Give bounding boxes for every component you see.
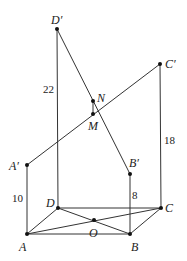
label-M: M <box>87 119 99 133</box>
geometry-diagram: A B C D O A′ B′ C′ D′ M N 10 8 18 22 <box>0 0 187 261</box>
point-D1 <box>55 27 59 31</box>
point-D <box>56 206 60 210</box>
point-N <box>91 99 95 103</box>
label-C: C <box>165 201 174 215</box>
edge-CC1 <box>160 64 161 208</box>
point-O <box>92 218 96 222</box>
label-C1: C′ <box>165 57 176 71</box>
label-A: A <box>18 240 27 254</box>
point-B <box>128 232 132 236</box>
point-A <box>25 232 29 236</box>
point-C1 <box>158 62 162 66</box>
label-B: B <box>131 240 139 254</box>
edge-DD1 <box>57 29 58 208</box>
label-B1: B′ <box>129 156 139 170</box>
label-D: D <box>45 196 55 210</box>
point-C <box>159 206 163 210</box>
length-AA1: 10 <box>12 192 24 204</box>
label-O: O <box>89 226 98 240</box>
point-A1 <box>25 163 29 167</box>
point-B1 <box>128 172 132 176</box>
edge-AD <box>27 208 58 234</box>
length-CC1: 18 <box>164 134 176 146</box>
point-M <box>91 112 95 116</box>
label-N: N <box>96 91 106 105</box>
edge-BC <box>130 208 161 234</box>
length-DD1: 22 <box>43 83 54 95</box>
length-BB1: 8 <box>132 189 138 201</box>
label-A1: A′ <box>8 159 19 173</box>
label-D1: D′ <box>50 13 63 27</box>
